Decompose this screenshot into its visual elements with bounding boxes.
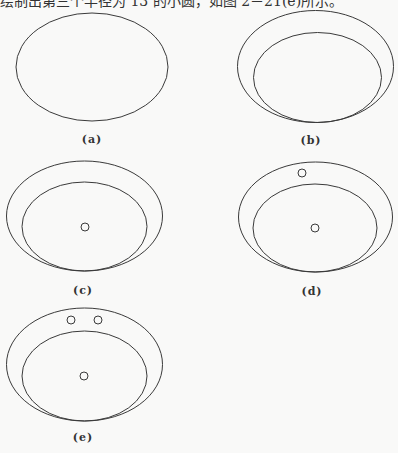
outer-ellipse	[7, 308, 163, 421]
figure-d	[239, 162, 393, 272]
figure-a	[16, 13, 168, 121]
figure-label-b: (b)	[300, 134, 321, 147]
outer-ellipse	[239, 162, 393, 272]
figure-b	[238, 11, 394, 123]
figure-label-a: (a)	[82, 133, 103, 146]
top-small-circle	[298, 169, 306, 177]
figure-label-c: (c)	[73, 284, 93, 297]
figure-c	[7, 161, 163, 271]
center-small-circle	[311, 224, 319, 232]
outer-ellipse	[238, 11, 394, 123]
figure-label-d: (d)	[301, 285, 322, 298]
inner-ellipse	[254, 33, 382, 123]
outer-ellipse	[7, 161, 163, 271]
top-right-small-circle	[94, 316, 102, 324]
inner-ellipse	[22, 331, 147, 421]
figure-label-e: (e)	[73, 431, 93, 444]
figure-e	[7, 308, 163, 421]
inner-ellipse	[253, 184, 377, 272]
center-small-circle	[80, 372, 88, 380]
inner-ellipse	[22, 182, 147, 271]
figure-set	[0, 0, 398, 453]
center-small-circle	[81, 223, 89, 231]
top-left-small-circle	[67, 316, 75, 324]
outer-ellipse	[16, 13, 168, 121]
